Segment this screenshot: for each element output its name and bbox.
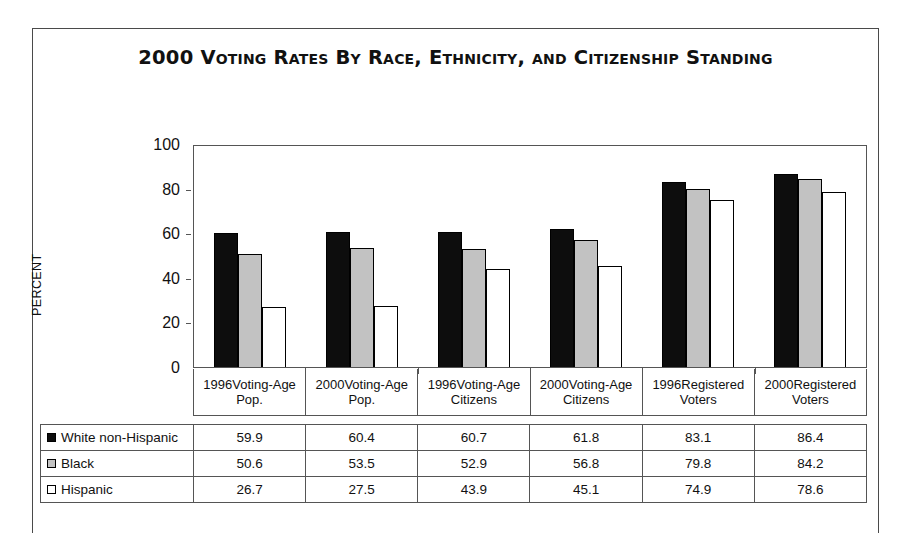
bar <box>438 232 462 367</box>
bar-group <box>306 146 418 367</box>
data-value-cell: 86.4 <box>754 425 866 451</box>
bar-group <box>530 146 642 367</box>
legend-entry: White non-Hispanic <box>41 425 194 451</box>
chart-page: 2000 Voting Rates By Race, Ethnicity, an… <box>0 0 910 533</box>
y-tick-label: 40 <box>162 270 180 288</box>
bar <box>214 233 238 367</box>
bar <box>598 266 622 367</box>
data-value-cell: 84.2 <box>754 451 866 477</box>
bar <box>798 179 822 367</box>
category-label-line: 2000Voting-Age <box>315 377 408 392</box>
legend-data-table-body: White non-Hispanic59.960.460.761.883.186… <box>41 425 867 503</box>
y-axis-tick-labels: 020406080100 <box>132 145 186 368</box>
data-value-cell: 78.6 <box>754 477 866 503</box>
data-value-cell: 60.4 <box>306 425 418 451</box>
legend-entry-label: White non-Hispanic <box>61 430 178 445</box>
bar-group <box>418 146 530 367</box>
bar <box>486 269 510 367</box>
data-value-cell: 60.7 <box>418 425 530 451</box>
table-row: Black50.653.552.956.879.884.2 <box>41 451 867 477</box>
bar <box>574 240 598 367</box>
category-axis-labels: 1996Voting-AgePop.2000Voting-AgePop.1996… <box>193 369 867 416</box>
legend-entry-label: Hispanic <box>61 482 113 497</box>
filled-gray-square-icon <box>47 459 56 468</box>
category-label-line: Pop. <box>315 392 408 407</box>
category-label: 2000RegisteredVoters <box>754 369 866 415</box>
category-label-line: 2000Voting-Age <box>540 377 633 392</box>
data-value-cell: 50.6 <box>194 451 306 477</box>
bar <box>238 254 262 367</box>
bar-group <box>194 146 306 367</box>
category-label-line: Voters <box>652 392 744 407</box>
data-value-cell: 26.7 <box>194 477 306 503</box>
category-label-line: 2000Registered <box>765 377 857 392</box>
category-label-line: Citizens <box>428 392 521 407</box>
category-label: 1996RegisteredVoters <box>642 369 754 415</box>
bar-group <box>642 146 754 367</box>
y-tick-mark <box>186 279 191 280</box>
category-label: 1996Voting-AgePop. <box>194 369 305 415</box>
bar-groups <box>194 146 866 367</box>
bar <box>326 232 350 367</box>
table-row: White non-Hispanic59.960.460.761.883.186… <box>41 425 867 451</box>
category-label: 2000Voting-AgeCitizens <box>530 369 642 415</box>
bar <box>774 174 798 367</box>
data-value-cell: 83.1 <box>642 425 754 451</box>
filled-black-square-icon <box>47 433 56 442</box>
data-value-cell: 43.9 <box>418 477 530 503</box>
data-value-cell: 45.1 <box>530 477 642 503</box>
category-label-line: Voters <box>765 392 857 407</box>
legend-entry: Hispanic <box>41 477 194 503</box>
data-value-cell: 74.9 <box>642 477 754 503</box>
plot-area <box>193 145 867 368</box>
bar <box>350 248 374 367</box>
data-value-cell: 56.8 <box>530 451 642 477</box>
chart-title: 2000 Voting Rates By Race, Ethnicity, an… <box>32 46 879 69</box>
bar <box>822 192 846 367</box>
data-value-cell: 59.9 <box>194 425 306 451</box>
category-label-line: Pop. <box>203 392 296 407</box>
legend-entry-label: Black <box>61 456 94 471</box>
category-label: 1996Voting-AgeCitizens <box>417 369 529 415</box>
y-tick-label: 20 <box>162 314 180 332</box>
y-axis-title: PERCENT <box>30 196 44 316</box>
y-tick-label: 60 <box>162 225 180 243</box>
data-value-cell: 53.5 <box>306 451 418 477</box>
y-tick-label: 100 <box>153 136 180 154</box>
bar <box>462 249 486 367</box>
bar <box>374 306 398 367</box>
chart-figure: PERCENT 020406080100 1996Voting-AgePop.2… <box>36 120 867 500</box>
data-value-cell: 52.9 <box>418 451 530 477</box>
category-label-line: 1996Registered <box>652 377 744 392</box>
bar <box>686 189 710 367</box>
bar <box>550 229 574 367</box>
y-tick-mark <box>186 323 191 324</box>
y-tick-mark <box>186 190 191 191</box>
bar-group <box>754 146 866 367</box>
y-tick-label: 80 <box>162 181 180 199</box>
y-tick-mark <box>186 234 191 235</box>
bar <box>710 200 734 367</box>
data-value-cell: 79.8 <box>642 451 754 477</box>
category-label: 2000Voting-AgePop. <box>305 369 417 415</box>
legend-entry: Black <box>41 451 194 477</box>
table-row: Hispanic26.727.543.945.174.978.6 <box>41 477 867 503</box>
data-value-cell: 61.8 <box>530 425 642 451</box>
legend-data-table: White non-Hispanic59.960.460.761.883.186… <box>40 424 867 503</box>
hollow-white-square-icon <box>47 485 56 494</box>
bar <box>262 307 286 367</box>
category-label-line: 1996Voting-Age <box>428 377 521 392</box>
category-label-line: 1996Voting-Age <box>203 377 296 392</box>
category-label-line: Citizens <box>540 392 633 407</box>
y-tick-label: 0 <box>171 359 180 377</box>
data-value-cell: 27.5 <box>306 477 418 503</box>
bar <box>662 182 686 367</box>
